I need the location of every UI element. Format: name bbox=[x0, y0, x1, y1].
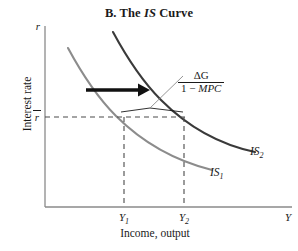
x-tick-label-y1: Y1 bbox=[119, 211, 129, 226]
curve-label-is1: IS1 bbox=[209, 166, 224, 181]
shift-magnitude-annotation: ΔG 1 − MPC bbox=[178, 70, 224, 95]
y-tick-r-bar: r bbox=[33, 111, 41, 124]
annotation-denominator-lead: 1 − bbox=[181, 82, 198, 94]
annotation-denominator-emphasis: MPC bbox=[198, 82, 221, 94]
y-tick-r-bar-label: r bbox=[35, 111, 40, 123]
x-axis-symbol: Y bbox=[285, 211, 293, 223]
annotation-denominator: 1 − MPC bbox=[178, 83, 224, 95]
figure-container: B. The IS Curve r Y r IS1 IS2 Y1 Y bbox=[0, 0, 298, 251]
shift-arrow bbox=[86, 84, 150, 97]
y-axis-symbol: r bbox=[36, 20, 41, 32]
curve-label-is2: IS2 bbox=[249, 145, 264, 160]
y-axis-title: Interest rate bbox=[21, 49, 33, 159]
x-tick-label-y2: Y2 bbox=[179, 211, 189, 226]
x-axis-title: Income, output bbox=[90, 227, 220, 239]
plot-area: r Y r IS1 IS2 Y1 Y2 bbox=[0, 0, 298, 251]
